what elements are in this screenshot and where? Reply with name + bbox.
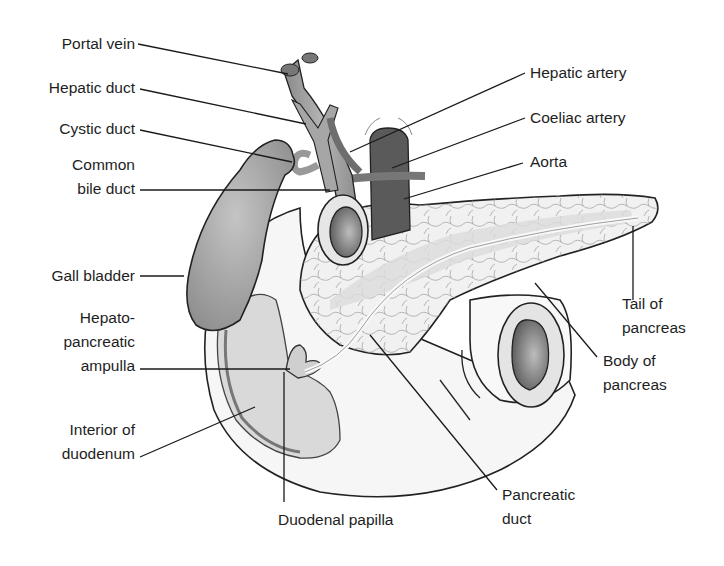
label-common-bile-duct: Common bile duct xyxy=(72,153,135,201)
label-aorta: Aorta xyxy=(530,150,567,174)
label-pancreatic-duct: Pancreatic duct xyxy=(502,483,575,531)
label-text: Interior of xyxy=(62,418,135,442)
label-text: pancreas xyxy=(603,373,667,397)
label-text: Pancreatic xyxy=(502,483,575,507)
label-duodenal-papilla: Duodenal papilla xyxy=(278,508,393,532)
label-text: Body of xyxy=(603,349,667,373)
label-tail-of-pancreas: Tail of pancreas xyxy=(622,292,686,340)
label-text: Coeliac artery xyxy=(530,106,626,130)
label-text: Portal vein xyxy=(62,32,135,56)
label-body-of-pancreas: Body of pancreas xyxy=(603,349,667,397)
label-text: Cystic duct xyxy=(59,117,135,141)
label-text: pancreatic xyxy=(63,330,135,354)
label-text: Tail of xyxy=(622,292,686,316)
label-text: Hepato- xyxy=(63,306,135,330)
label-text: Hepatic duct xyxy=(49,76,135,100)
label-text: Common xyxy=(72,153,135,177)
label-hepato-pancreatic-ampulla: Hepato- pancreatic ampulla xyxy=(63,306,135,378)
label-cystic-duct: Cystic duct xyxy=(59,117,135,141)
label-hepatic-duct: Hepatic duct xyxy=(49,76,135,100)
label-hepatic-artery: Hepatic artery xyxy=(530,61,626,85)
label-text: ampulla xyxy=(63,354,135,378)
label-text: bile duct xyxy=(72,177,135,201)
label-text: Duodenal papilla xyxy=(278,508,393,532)
label-text: Gall bladder xyxy=(51,264,135,288)
label-coeliac-artery: Coeliac artery xyxy=(530,106,626,130)
label-interior-of-duodenum: Interior of duodenum xyxy=(62,418,135,466)
duodenum-cut-end xyxy=(318,195,368,265)
label-text: Aorta xyxy=(530,150,567,174)
label-text: pancreas xyxy=(622,316,686,340)
label-text: duct xyxy=(502,507,575,531)
label-gall-bladder: Gall bladder xyxy=(51,264,135,288)
label-text: duodenum xyxy=(62,442,135,466)
label-portal-vein: Portal vein xyxy=(62,32,135,56)
label-text: Hepatic artery xyxy=(530,61,626,85)
